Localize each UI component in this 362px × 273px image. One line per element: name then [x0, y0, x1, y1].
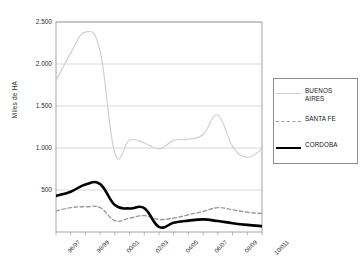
legend-label-cordoba: CORDOBA — [305, 141, 338, 149]
x-axis-tick-label: 08/09 — [243, 239, 258, 254]
chart-legend: BUENOS AIRES SANTA FE CORDOBA — [273, 78, 358, 164]
legend-label-buenos-aires: BUENOS AIRES — [305, 87, 332, 102]
x-axis-tick-label: 02/03 — [155, 239, 170, 254]
legend-line-swatch-santa-fe — [274, 117, 302, 127]
x-axis-tick-label: 96/97 — [66, 239, 81, 254]
chart-container: Miles de HA 2.5002.0001.5001.000500 96/9… — [0, 0, 362, 273]
legend-item-cordoba: CORDOBA — [274, 141, 359, 153]
legend-item-santa-fe: SANTA FE — [274, 115, 359, 127]
x-axis-tick-label: 04/05 — [184, 239, 199, 254]
legend-label-santa-fe: SANTA FE — [305, 115, 336, 123]
x-axis-tick-label: 06/07 — [214, 239, 229, 254]
legend-line-swatch-cordoba — [274, 143, 302, 153]
x-axis-tick-label: 98/99 — [96, 239, 111, 254]
legend-item-buenos-aires: BUENOS AIRES — [274, 87, 359, 102]
legend-line-swatch-buenos-aires — [274, 89, 302, 99]
x-axis-tick-label: 10/011 — [273, 239, 290, 256]
x-axis-tick-label: 00/01 — [125, 239, 140, 254]
